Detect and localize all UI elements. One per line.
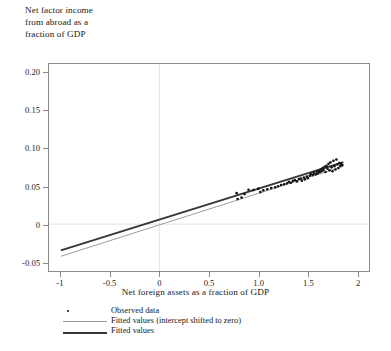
legend-label: Observed data (111, 306, 159, 316)
x-tick-mark (308, 272, 309, 277)
y-tick-mark (43, 225, 48, 226)
x-tick-mark (110, 272, 111, 277)
x-tick-mark (259, 272, 260, 277)
figure-scatter-net-factor-income: Net factor income from abroad as a fract… (0, 0, 391, 351)
fitted-line (61, 162, 343, 250)
y-axis-label: Net factor income from abroad as a fract… (25, 4, 93, 40)
legend-label: Fitted values (111, 326, 154, 336)
y-tick-mark (43, 72, 48, 73)
plot-area (48, 63, 370, 272)
y-tick-label: 0 (0, 220, 40, 230)
legend-item: Fitted values (63, 327, 76, 337)
legend-label: Fitted values (intercept shifted to zero… (111, 316, 241, 326)
x-tick-mark (60, 272, 61, 277)
chart-legend: Observed data Fitted values (intercept s… (63, 306, 76, 337)
legend-marker-dot-icon (63, 306, 107, 316)
y-tick-mark (43, 187, 48, 188)
x-tick-mark (209, 272, 210, 277)
y-tick-label: 0.20 (0, 67, 40, 77)
y-tick-mark (43, 148, 48, 149)
y-tick-label: 0.10 (0, 143, 40, 153)
x-axis-label: Net foreign assets as a fraction of GDP (0, 287, 391, 297)
y-tick-mark (43, 110, 48, 111)
plot-canvas (49, 64, 369, 271)
legend-item: Observed data (63, 306, 76, 316)
legend-item: Fitted values (intercept shifted to zero… (63, 316, 76, 326)
y-tick-mark (43, 263, 48, 264)
legend-marker-line-thick-icon (63, 327, 107, 337)
y-tick-label: 0.15 (0, 105, 40, 115)
legend-marker-line-thin-icon (63, 316, 107, 326)
x-tick-mark (159, 272, 160, 277)
y-tick-label: 0.05 (0, 182, 40, 192)
x-tick-mark (358, 272, 359, 277)
y-tick-label: -0.05 (0, 258, 40, 268)
